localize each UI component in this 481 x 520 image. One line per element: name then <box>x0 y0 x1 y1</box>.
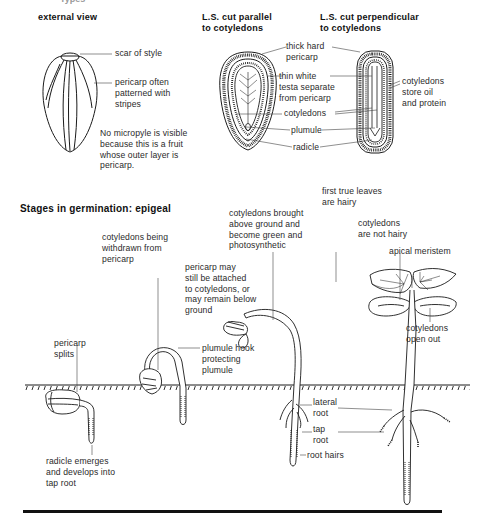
label-plumule-hook: plumule hook protecting plumule <box>202 343 254 375</box>
ls-perpendicular-heading: L.S. cut perpendicular to cotyledons <box>320 12 419 34</box>
label-cotyledons: cotyledons <box>284 108 326 119</box>
label-cotyledons-not-hairy: cotyledons are not hairy <box>358 218 407 240</box>
label-thick-hard-pericarp: thick hard pericarp <box>286 41 324 63</box>
note-no-micropyle: No micropyle is visible because this is … <box>100 128 187 171</box>
label-cotyledons-brought-above: cotyledons brought above ground and beco… <box>229 208 303 251</box>
label-cotyledons-store: cotyledons store oil and protein <box>402 76 446 108</box>
label-scar-of-style: scar of style <box>115 48 162 59</box>
ls-perpendicular-seed <box>357 51 393 153</box>
label-cotyledons-open-out: cotyledons open out <box>406 323 448 345</box>
ground-surface <box>25 385 470 392</box>
ls-parallel-heading: L.S. cut parallel to cotyledons <box>202 12 272 34</box>
germination-heading: Stages in germination: epigeal <box>20 203 171 215</box>
external-view-heading: external view <box>38 12 97 23</box>
label-tap-root: tap root <box>313 424 328 446</box>
label-pericarp-striped: pericarp often patterned with stripes <box>115 77 170 109</box>
ls-parallel-seed <box>220 52 277 150</box>
label-cotyledons-withdrawn: cotyledons being withdrawn from pericarp <box>102 232 168 264</box>
label-radicle-emerges: radicle emerges and develops into tap ro… <box>46 456 115 488</box>
label-radicle: radicle <box>293 142 319 153</box>
label-plumule: plumule <box>291 125 322 136</box>
label-apical-meristem: apical meristem <box>389 246 451 257</box>
stage-1-seed <box>46 390 94 443</box>
label-thin-white-testa: thin white testa separate from pericarp <box>279 71 335 103</box>
label-first-true-leaves: first true leaves are hairy <box>322 186 382 208</box>
label-pericarp-attached: pericarp may still be attached to cotyle… <box>185 262 256 316</box>
bottom-divider <box>23 510 442 513</box>
label-root-hairs: root hairs <box>307 450 344 461</box>
label-lateral-root: lateral root <box>313 397 337 419</box>
label-pericarp-splits: pericarp splits <box>54 338 86 360</box>
external-view-seed <box>43 53 97 152</box>
